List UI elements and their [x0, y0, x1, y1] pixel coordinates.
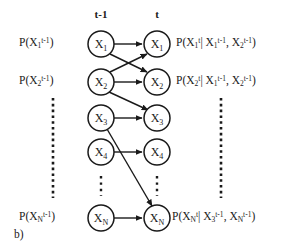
edge-x3-to-xn: [107, 129, 152, 206]
edge-x2-to-x3: [109, 92, 148, 110]
slice-label-current: t: [155, 8, 159, 20]
slice-label-previous: t-1: [95, 8, 108, 20]
panel-caption: b): [14, 228, 24, 240]
prior-label-xn: P(XNt-1): [19, 211, 55, 224]
edge-group: [107, 44, 152, 218]
prior-label-x2: P(X2t-1): [19, 75, 53, 88]
prior-label-x1: P(X1t-1): [19, 37, 53, 50]
conditional-label-x1: P(X1t| X1t-1, X2t-1): [176, 37, 256, 50]
node-group-previous: X1 X2 X3 X4 XN: [88, 31, 114, 231]
conditional-label-x2: P(X2t| X1t-1, X2t-1): [176, 75, 256, 88]
conditional-label-xn: P(XNt| X3t-1, XNt-1): [172, 211, 255, 224]
node-group-current: X1 X2 X3 X4 XN: [144, 31, 170, 231]
dbn-figure: t-1 t X1 X2 X3 X4 XN: [0, 0, 293, 249]
